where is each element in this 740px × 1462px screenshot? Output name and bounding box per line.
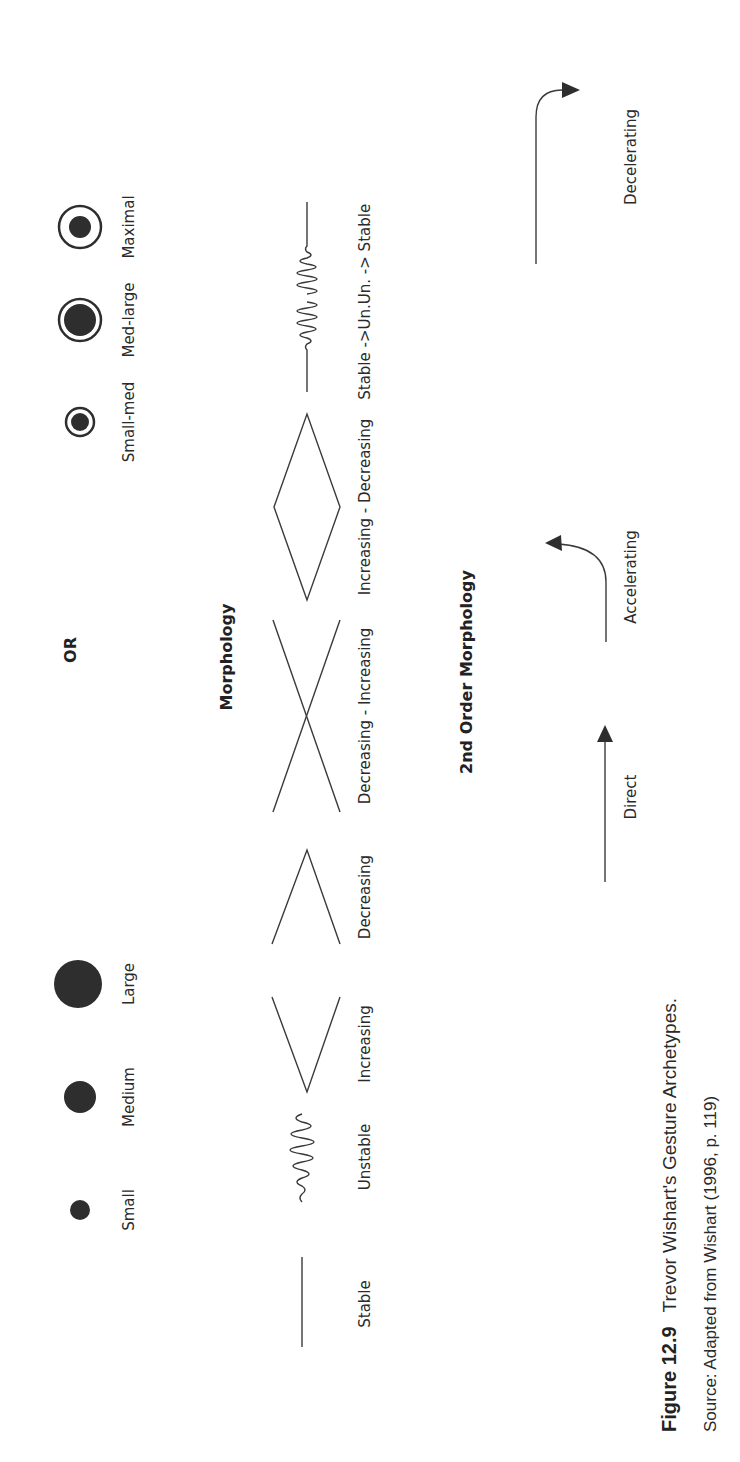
size-small-med: Small-med [66,382,138,462]
medium-dot-icon [64,1081,96,1113]
maximal-core-icon [69,216,91,238]
morph-increasing: Increasing [272,997,374,1092]
increasing-wedge-icon [272,997,340,1092]
label-increasing: Increasing [356,1005,374,1082]
figure-caption: Figure 12.9 Trevor Wishart's Gesture Arc… [658,998,720,1432]
accelerating-arrowhead-icon [545,535,562,551]
second-decelerating: Decelerating [536,82,640,264]
morph-unstable: Unstable [290,1114,374,1202]
unstable-wave-icon [290,1114,314,1202]
size-maximal: Maximal [59,195,138,258]
second-direct: Direct [597,725,640,882]
morph-decreasing-increasing: Decreasing - Increasing [273,620,374,812]
decelerating-arrowhead-icon [562,82,580,98]
label-small: Small [120,1189,138,1231]
label-maximal: Maximal [120,195,138,258]
morph-stable-to-unstable: Stable ->Un. [297,302,374,400]
figure-number: Figure 12.9 [658,1326,680,1432]
label-large: Large [120,963,138,1005]
morph-increasing-decreasing: Increasing - Decreasing [274,414,374,600]
size-large: Large [54,960,138,1008]
second-accelerating: Accelerating [545,530,640,642]
label-direct: Direct [622,774,640,819]
stable-to-unstable-icon [297,302,317,392]
label-accelerating: Accelerating [622,530,640,624]
label-decreasing: Decreasing [356,855,374,939]
diamond-icon [274,414,340,600]
med-large-core-icon [64,304,96,336]
label-decelerating: Decelerating [622,109,640,205]
rotated-figure: Small Medium Large OR Small-med Med-larg… [0,0,740,1462]
label-stable-to-unstable: Stable ->Un. [356,304,374,400]
label-unstable-to-stable: Un. -> Stable [356,204,374,304]
label-increasing-decreasing: Increasing - Decreasing [356,419,374,596]
small-dot-icon [70,1200,90,1220]
morph-stable: Stable [302,1257,374,1347]
morphology-title: Morphology [217,603,236,711]
accelerating-arrow-line-icon [558,544,606,642]
size-med-large: Med-large [59,282,138,357]
figure-canvas: Small Medium Large OR Small-med Med-larg… [0,0,740,1462]
morph-unstable-to-stable: Un. -> Stable [297,202,374,304]
label-med-large: Med-large [120,282,138,357]
direct-arrowhead-icon [597,725,613,742]
decelerating-arrow-line-icon [536,90,562,264]
size-small: Small [70,1189,138,1231]
figure-title: Trevor Wishart's Gesture Archetypes. [659,998,680,1312]
small-med-core-icon [71,413,89,431]
caption-line: Figure 12.9 Trevor Wishart's Gesture Arc… [658,998,680,1432]
size-medium: Medium [64,1067,138,1127]
morph-decreasing: Decreasing [272,850,374,944]
figure-source: Source: Adapted from Wishart (1996, p. 1… [701,1096,720,1432]
second-order-title: 2nd Order Morphology [457,570,476,774]
or-separator: OR [61,637,80,663]
label-small-med: Small-med [120,382,138,462]
label-stable: Stable [356,1280,374,1328]
label-decreasing-increasing: Decreasing - Increasing [356,628,374,805]
large-dot-icon [54,960,102,1008]
label-unstable: Unstable [356,1124,374,1190]
decreasing-wedge-icon [272,850,340,944]
unstable-to-stable-icon [297,202,317,294]
label-medium: Medium [120,1067,138,1127]
